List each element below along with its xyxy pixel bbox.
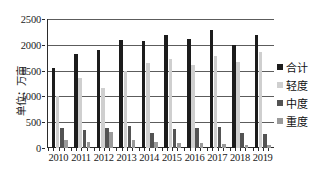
bar	[169, 59, 173, 148]
bar	[255, 35, 259, 148]
y-axis-tick-mark	[42, 148, 45, 149]
x-axis-tick-mark	[253, 148, 258, 151]
bar	[124, 71, 128, 148]
x-axis-tick-mark	[162, 148, 167, 151]
bar	[60, 128, 64, 148]
x-axis-tick-mark	[263, 148, 268, 151]
x-axis-tick-mark	[230, 148, 235, 151]
y-axis-tick-mark	[42, 96, 45, 97]
x-axis-label: 2012	[92, 152, 115, 163]
y-axis-tick-mark	[42, 71, 45, 72]
y-axis-tick-mark	[42, 122, 45, 123]
legend-item[interactable]: 合计	[277, 58, 323, 76]
bar	[263, 134, 267, 148]
bar	[187, 39, 191, 148]
bar	[119, 40, 123, 148]
x-axis-tick-mark	[76, 148, 81, 151]
legend-item[interactable]: 中度	[277, 94, 323, 112]
bar	[74, 54, 78, 148]
x-axis-tick-mark	[127, 148, 132, 151]
bar	[146, 63, 150, 148]
y-axis-tick-label: 0	[36, 143, 41, 154]
bar	[78, 78, 82, 148]
legend-item-label: 中度	[286, 95, 308, 111]
legend-item-label: 重度	[286, 113, 308, 129]
x-axis-tick-mark	[109, 148, 114, 151]
x-axis-tick-mark	[81, 148, 86, 151]
x-axis-label: 2011	[70, 152, 93, 163]
bar-group	[229, 19, 252, 148]
x-axis-labels: 2010201120122013201420152016201720182019	[47, 152, 274, 163]
x-axis-tick-mark	[223, 148, 228, 151]
x-axis-tick-mark	[139, 148, 144, 151]
x-axis-tick-mark	[87, 148, 92, 151]
bar-group	[184, 19, 207, 148]
y-axis: 25002000150010005000	[0, 19, 45, 148]
bar	[105, 128, 109, 148]
x-axis-label: 2019	[251, 152, 274, 163]
y-axis-tick-label: 2500	[21, 14, 41, 25]
bar-group	[116, 19, 139, 148]
x-axis-label: 2016	[183, 152, 206, 163]
x-axis-label: 2013	[115, 152, 138, 163]
bar	[195, 128, 199, 148]
legend-swatch-icon	[277, 82, 283, 88]
legend-item-label: 合计	[286, 59, 308, 75]
bars-layer	[47, 19, 274, 148]
legend-item[interactable]: 轻度	[277, 76, 323, 94]
x-axis-tick-mark	[99, 148, 104, 151]
bar	[214, 56, 218, 148]
bar	[52, 68, 56, 148]
x-axis-tick-mark	[59, 148, 64, 151]
x-axis-tick-mark	[172, 148, 177, 151]
legend-item[interactable]: 重度	[277, 112, 323, 130]
x-axis-tick-mark	[212, 148, 217, 151]
bar	[232, 45, 236, 148]
x-axis-tick-mark	[245, 148, 250, 151]
x-axis-tick-mark	[64, 148, 69, 151]
x-axis-tick-mark	[268, 148, 273, 151]
bar-group	[251, 19, 274, 148]
bar	[150, 133, 154, 148]
bar-group	[161, 19, 184, 148]
y-axis-tick-mark	[42, 19, 45, 20]
x-axis-tick-mark	[240, 148, 245, 151]
x-axis-tick-mark	[116, 148, 121, 151]
bar	[83, 130, 87, 148]
y-axis-tick-label: 1500	[21, 65, 41, 76]
bar	[236, 62, 240, 148]
x-axis-label: 2010	[47, 152, 70, 163]
x-axis-tick-mark	[71, 148, 76, 151]
x-axis-tick-mark	[53, 148, 58, 151]
bar	[259, 52, 263, 148]
legend-swatch-icon	[277, 64, 283, 70]
bar	[64, 140, 68, 149]
x-axis-tick-mark	[155, 148, 160, 151]
x-axis-tick-mark	[184, 148, 189, 151]
bar	[97, 50, 101, 148]
x-axis-tick-mark	[190, 148, 195, 151]
x-axis-tick-mark	[104, 148, 109, 151]
bar	[164, 35, 168, 148]
bar	[218, 127, 222, 148]
y-axis-tick-label: 1000	[21, 91, 41, 102]
bar	[101, 88, 105, 148]
x-axis-tick-mark	[177, 148, 182, 151]
bar	[210, 30, 214, 148]
bar	[128, 126, 132, 148]
bar	[132, 140, 136, 148]
y-axis-tick-label: 2000	[21, 39, 41, 50]
x-axis-label: 2017	[206, 152, 229, 163]
bar	[173, 129, 177, 148]
x-axis-label: 2015	[161, 152, 184, 163]
x-axis-label: 2014	[138, 152, 161, 163]
legend-swatch-icon	[277, 118, 283, 124]
bar	[191, 65, 195, 148]
x-axis-tick-mark	[258, 148, 263, 151]
x-axis-tick-mark	[167, 148, 172, 151]
x-axis-tick-mark	[48, 148, 53, 151]
legend: 合计轻度中度重度	[277, 58, 323, 130]
bar	[142, 41, 146, 148]
x-axis-tick-mark	[200, 148, 205, 151]
legend-swatch-icon	[277, 100, 283, 106]
